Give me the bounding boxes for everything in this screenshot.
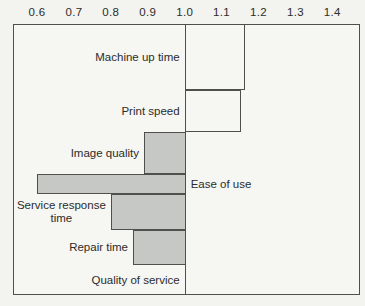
bar-label: Machine up time [95, 50, 179, 63]
bar-label: Quality of service [91, 274, 179, 287]
bar-repair-time [133, 230, 186, 266]
x-tick-label: 1.4 [324, 6, 341, 18]
bar-label: Print speed [121, 104, 179, 117]
x-tick-label: 0.9 [139, 6, 156, 18]
x-tick-label: 0.8 [102, 6, 119, 18]
x-tick-label: 0.6 [29, 6, 46, 18]
bar-ease-of-use [37, 174, 186, 195]
x-tick-label: 0.7 [65, 6, 82, 18]
x-tick-label: 1.2 [250, 6, 267, 18]
bar-label: Ease of use [191, 177, 252, 190]
x-tick-label: 1.1 [213, 6, 230, 18]
bar-label: Image quality [71, 146, 139, 159]
x-tick-label: 1.3 [287, 6, 304, 18]
bar-image-quality [144, 132, 186, 174]
tornado-chart: 0.60.70.80.91.01.11.21.31.4 Machine up t… [0, 0, 365, 306]
bar-label: Service response time [17, 199, 106, 225]
x-tick-label: 1.0 [176, 6, 193, 18]
bar-print-speed [185, 90, 241, 132]
bar-service-response-time [111, 194, 186, 230]
bar-label: Repair time [69, 241, 128, 254]
bar-machine-up-time [185, 24, 245, 90]
